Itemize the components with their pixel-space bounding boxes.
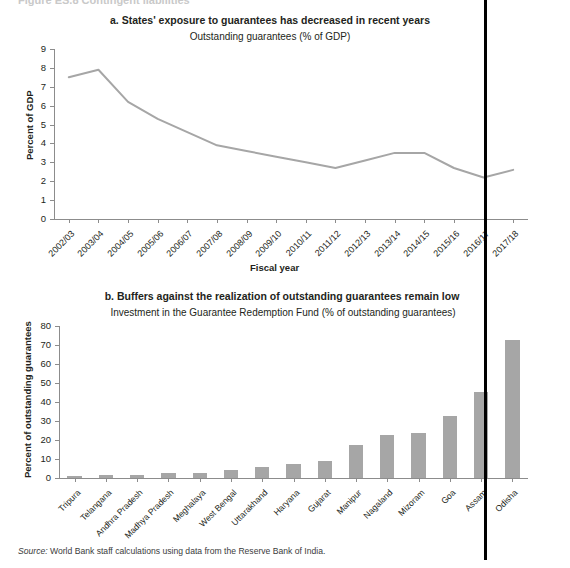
panel-a-x-tick bbox=[513, 219, 514, 223]
figure-canvas: Figure ES.8 Contingent liabilities a. St… bbox=[0, 0, 570, 568]
panel-b-x-tick bbox=[200, 478, 201, 482]
page-gutter-rule bbox=[484, 0, 487, 560]
panel-b-x-tick bbox=[387, 478, 388, 482]
panel-b-bar bbox=[224, 470, 238, 478]
cut-off-figure-header: Figure ES.8 Contingent liabilities bbox=[18, 0, 438, 8]
panel-a-x-tick bbox=[98, 219, 99, 223]
panel-b-x-tick bbox=[231, 478, 232, 482]
panel-a-x-tick bbox=[69, 219, 70, 223]
panel-a-x-tick bbox=[335, 219, 336, 223]
panel-a-x-axis bbox=[54, 219, 528, 220]
panel-a-plot-area: 01234567892002/032003/042004/052005/0620… bbox=[54, 49, 528, 219]
panel-b-x-tick bbox=[294, 478, 295, 482]
panel-b-x-tick bbox=[481, 478, 482, 482]
panel-b-y-tick-label: 20 bbox=[27, 434, 51, 445]
panel-b-y-tick-label: 10 bbox=[27, 453, 51, 464]
panel-a-subtitle: Outstanding guarantees (% of GDP) bbox=[55, 31, 485, 42]
panel-b-y-tick bbox=[55, 383, 59, 384]
panel-a-x-tick bbox=[276, 219, 277, 223]
panel-b-x-tick bbox=[75, 478, 76, 482]
panel-b-y-tick bbox=[55, 459, 59, 460]
panel-b-y-tick-label: 30 bbox=[27, 415, 51, 426]
panel-a-y-tick-label: 7 bbox=[24, 81, 46, 92]
panel-b-y-tick-label: 70 bbox=[27, 339, 51, 350]
panel-a-title: a. States' exposure to guarantees has de… bbox=[55, 14, 485, 26]
panel-a-x-tick bbox=[158, 219, 159, 223]
panel-a-x-tick bbox=[128, 219, 129, 223]
panel-b-bar bbox=[99, 475, 113, 478]
panel-b-y-tick bbox=[55, 440, 59, 441]
source-text: World Bank staff calculations using data… bbox=[48, 546, 326, 556]
panel-b-y-tick-label: 60 bbox=[27, 358, 51, 369]
panel-b-y-axis bbox=[59, 326, 60, 478]
panel-b-y-tick bbox=[55, 345, 59, 346]
panel-a-x-tick bbox=[306, 219, 307, 223]
panel-b-y-tick-label: 50 bbox=[27, 377, 51, 388]
panel-b-x-tick bbox=[450, 478, 451, 482]
panel-b-y-tick bbox=[55, 326, 59, 327]
panel-b-x-tick bbox=[106, 478, 107, 482]
panel-a-x-tick bbox=[395, 219, 396, 223]
panel-a-x-tick bbox=[187, 219, 188, 223]
panel-b-y-tick bbox=[55, 364, 59, 365]
panel-b-bar bbox=[411, 433, 425, 478]
panel-a-x-tick bbox=[247, 219, 248, 223]
panel-b-x-tick bbox=[137, 478, 138, 482]
panel-b-bar bbox=[318, 461, 332, 478]
source-note: Source: World Bank staff calculations us… bbox=[18, 546, 325, 556]
panel-b-x-tick bbox=[512, 478, 513, 482]
panel-b-bar bbox=[255, 467, 269, 478]
panel-a-y-tick-label: 6 bbox=[24, 100, 46, 111]
panel-a-x-axis-title: Fiscal year bbox=[250, 262, 299, 273]
source-label: Source: bbox=[18, 546, 48, 556]
panel-a-x-tick bbox=[454, 219, 455, 223]
panel-b-y-tick-label: 0 bbox=[27, 472, 51, 483]
panel-b-x-tick bbox=[262, 478, 263, 482]
panel-b-x-tick bbox=[356, 478, 357, 482]
panel-a-y-tick bbox=[50, 219, 54, 220]
panel-b-bar bbox=[286, 464, 300, 478]
panel-a-y-tick-label: 2 bbox=[24, 175, 46, 186]
panel-b-y-tick-label: 40 bbox=[27, 396, 51, 407]
panel-a-y-tick-label: 3 bbox=[24, 156, 46, 167]
panel-a-series-line bbox=[54, 49, 528, 219]
panel-b-bar bbox=[380, 435, 394, 478]
panel-a-y-tick-label: 1 bbox=[24, 194, 46, 205]
panel-b-subtitle: Investment in the Guarantee Redemption F… bbox=[48, 307, 518, 318]
panel-a-x-tick bbox=[424, 219, 425, 223]
panel-a-y-tick-label: 8 bbox=[24, 62, 46, 73]
panel-a-x-tick bbox=[365, 219, 366, 223]
panel-b-y-tick bbox=[55, 478, 59, 479]
panel-b-x-tick bbox=[168, 478, 169, 482]
panel-a-y-tick-label: 9 bbox=[24, 43, 46, 54]
panel-b-bar bbox=[193, 473, 207, 478]
panel-b-bar bbox=[130, 475, 144, 478]
panel-b-bar bbox=[161, 473, 175, 478]
panel-b-y-tick bbox=[55, 402, 59, 403]
panel-b-bar bbox=[67, 476, 81, 478]
panel-a-y-tick-label: 4 bbox=[24, 137, 46, 148]
panel-b-bar bbox=[505, 340, 519, 478]
panel-b-x-tick bbox=[419, 478, 420, 482]
panel-a-y-tick-label: 0 bbox=[24, 213, 46, 224]
panel-b-y-tick bbox=[55, 421, 59, 422]
panel-b-bar bbox=[443, 416, 457, 478]
panel-b-plot-area: 01020304050607080TripuraTelanganaAndhra … bbox=[59, 326, 528, 478]
panel-b-title: b. Buffers against the realization of ou… bbox=[62, 290, 502, 302]
panel-b-bar bbox=[349, 445, 363, 478]
panel-b-x-tick bbox=[325, 478, 326, 482]
panel-b-y-tick-label: 80 bbox=[27, 320, 51, 331]
panel-a-x-tick bbox=[217, 219, 218, 223]
panel-a-y-tick-label: 5 bbox=[24, 119, 46, 130]
